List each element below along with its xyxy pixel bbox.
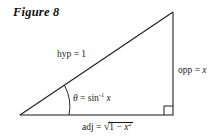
square-root-expression: √1 − x2	[104, 121, 133, 133]
hypotenuse-label-value: 1	[81, 49, 86, 59]
right-angle-marker-icon	[164, 106, 173, 115]
arcsin-exponent: -1	[99, 91, 104, 98]
adjacent-label-prefix: adj =	[82, 122, 104, 132]
radicand-lead: 1 −	[109, 122, 124, 132]
hypotenuse-label-prefix: hyp =	[57, 49, 81, 59]
figure-container: Figure 8 hyp = 1 opp = x θ = sin-1 x adj…	[0, 0, 222, 136]
adjacent-label: adj = √1 − x2	[82, 121, 133, 133]
opposite-label: opp = x	[178, 66, 207, 76]
angle-arc-icon	[65, 85, 70, 115]
angle-equals: =	[78, 93, 88, 103]
angle-label: θ = sin-1 x	[73, 94, 111, 104]
arcsin-function-name: sin	[88, 93, 99, 103]
hypotenuse-label: hyp = 1	[57, 50, 86, 60]
radicand-exponent: 2	[128, 120, 131, 127]
arcsin-argument: x	[107, 93, 111, 103]
radicand: 1 − x2	[108, 122, 132, 133]
opposite-label-value: x	[202, 65, 206, 75]
opposite-label-prefix: opp =	[178, 65, 202, 75]
